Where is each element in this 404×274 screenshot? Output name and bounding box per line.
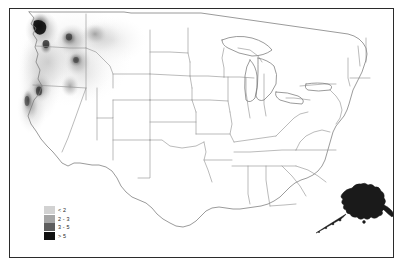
legend-swatch-lt2: [44, 206, 55, 214]
state-border-ms-al: [248, 166, 250, 204]
legend-label-lt2: < 2: [58, 206, 66, 214]
density-legend: < 2 2 - 3 3 - 5 > 5: [44, 206, 90, 240]
state-border-mn-ia: [190, 76, 224, 77]
state-border-ia-mo: [192, 100, 228, 101]
aleutian-island-2: [332, 223, 334, 225]
aleutian-island-1: [339, 219, 341, 221]
density-blob-boise-core: [73, 57, 79, 63]
density-blob-panhandle-core: [66, 34, 72, 41]
lake-huron-michigan-mitten: [256, 58, 277, 101]
state-border-ny-vt-ma: [348, 58, 350, 86]
state-border-wi-il: [224, 77, 254, 78]
state-border-nd-mn: [188, 28, 190, 62]
density-blob-norcal-core: [25, 96, 30, 106]
aleutian-island-4: [318, 231, 319, 232]
legend-label-gt5: > 5: [58, 232, 66, 240]
state-border-ia-il: [228, 77, 230, 112]
state-border-ga-fl: [270, 204, 296, 206]
state-border-vt-nh: [358, 46, 360, 66]
alaska-island-kodiak: [363, 221, 366, 224]
legend-swatch-gt5: [44, 232, 55, 240]
legend-item-3: > 5: [44, 232, 90, 241]
legend-item-0: < 2: [44, 206, 90, 215]
state-border-al-ga: [266, 166, 270, 206]
density-blob-sidaho-mid: [61, 75, 79, 97]
state-border-oh-pa: [286, 98, 310, 100]
state-border-pa-nj-de-md: [330, 90, 342, 124]
state-border-ok-tx: [150, 140, 204, 148]
state-border-mo-il-ky: [230, 112, 234, 142]
state-border-in-oh: [264, 74, 266, 116]
state-border-ky-tn: [234, 150, 296, 152]
legend-item-2: 3 - 5: [44, 223, 90, 232]
legend-swatch-2to3: [44, 215, 55, 223]
legend-label-2to3: 2 - 3: [58, 215, 70, 223]
legend-label-3to5: 3 - 5: [58, 223, 70, 231]
state-border-ut-az: [97, 100, 113, 118]
state-border-va-wv-md: [296, 130, 330, 150]
aleutian-island-3: [325, 227, 327, 229]
alaska-inset-group: [316, 183, 394, 233]
state-border-sd-mn-ia: [190, 62, 192, 88]
state-border-il-in: [246, 78, 250, 118]
map-figure: < 2 2 - 3 3 - 5 > 5: [0, 0, 404, 274]
aleutian-chain: [316, 214, 346, 233]
great-lakes-outlines: [222, 36, 332, 104]
state-border-il-ky: [234, 136, 276, 142]
legend-item-1: 2 - 3: [44, 215, 90, 224]
state-border-tx-la: [204, 142, 212, 182]
density-surface: [16, 3, 146, 134]
legend-swatch-3to5: [44, 223, 55, 231]
state-border-nm-tx: [138, 140, 150, 178]
state-border-sc-nc: [296, 166, 326, 182]
state-border-sd-ne: [150, 74, 190, 76]
density-blob-mt-mid: [83, 24, 107, 44]
state-border-nd-sd: [150, 52, 188, 53]
alaska-inset: [341, 183, 386, 219]
state-border-mn-wi: [222, 48, 224, 77]
state-border-wv-oh-pa: [276, 112, 308, 136]
